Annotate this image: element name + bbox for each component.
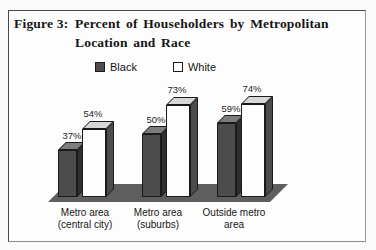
figure-caption: Figure 3: Percent of Householders by Met… [9,11,365,53]
value-label-black-0: 37% [62,130,81,141]
bar-white-0-side-face [106,121,114,197]
bar-white-1-front-face [166,105,190,197]
figure-frame: Figure 3: Percent of Householders by Met… [8,10,366,242]
legend-item-white: White [173,61,216,73]
figure-title: Percent of Householders by Metropolitan … [75,15,357,53]
legend-label-white: White [188,61,216,73]
figure-number: Figure 3: [14,15,75,53]
bar-black-2-front-face [217,123,236,197]
bar-white-2-front-face [241,104,265,197]
value-label-black-2: 59% [221,103,240,114]
bar-white-1-side-face [190,97,198,197]
value-label-black-1: 50% [146,114,165,125]
bar-black-0-front-face [58,150,77,197]
category-label-2: Outside metro area [186,207,282,230]
legend-swatch-black-icon [95,62,105,72]
value-label-white-0: 54% [83,108,102,119]
value-label-white-1: 73% [167,84,186,95]
legend-swatch-white-icon [173,62,183,72]
legend-label-black: Black [110,61,137,73]
bar-black-1-front-face [142,134,161,197]
legend-item-black: Black [95,61,137,73]
value-label-white-2: 74% [242,83,261,94]
scanned-page: Figure 3: Percent of Householders by Met… [0,0,376,250]
bar-white-2-side-face [265,96,273,197]
chart-legend: Black White [95,61,365,73]
bar-white-0-front-face [82,129,106,197]
